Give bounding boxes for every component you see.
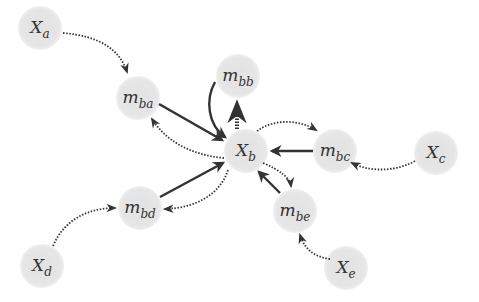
message-passing-diagram: XambambbXbmbcXcmbdmbeXdXe xyxy=(0,0,479,302)
edge-Xa-to-mba xyxy=(63,33,127,72)
edge-Xd-to-mbd xyxy=(53,208,115,246)
edge-mbe-to-Xb xyxy=(259,172,280,193)
edge-mbd-to-Xb xyxy=(160,163,223,197)
edge-Xb-to-mbe xyxy=(263,163,291,186)
edge-Xc-to-mbc xyxy=(352,161,415,170)
diagram-svg: XambambbXbmbcXcmbdmbeXdXe xyxy=(0,0,479,302)
edge-Xb-to-mbc xyxy=(257,122,316,131)
edge-Xe-to-mbe xyxy=(300,235,330,259)
